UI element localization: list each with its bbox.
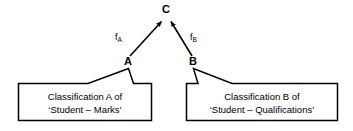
box-a-caption-line2: ‘Student – Marks’ <box>18 104 152 117</box>
edge-label-fb-subscript: B <box>193 36 197 43</box>
box-a-caption: Classification A of ‘Student – Marks’ <box>18 91 152 116</box>
node-label-a: A <box>124 56 132 67</box>
box-b-caption: Classification B of ‘Student – Qualifica… <box>186 91 338 116</box>
edge-label-fb: fB <box>190 33 197 42</box>
box-b-caption-line2: ‘Student – Qualifications’ <box>186 104 338 117</box>
node-label-b: B <box>189 56 197 67</box>
box-b-caption-line1: Classification B of <box>186 91 338 104</box>
edge-fa-line <box>130 22 162 57</box>
node-label-c: C <box>162 4 170 15</box>
edge-label-fa-subscript: A <box>118 36 122 43</box>
box-a-caption-line1: Classification A of <box>18 91 152 104</box>
diagram-canvas: C A B fA fB Classification A of ‘Student… <box>0 0 353 131</box>
edge-label-fa: fA <box>115 33 122 42</box>
edge-fb-line <box>171 22 192 57</box>
